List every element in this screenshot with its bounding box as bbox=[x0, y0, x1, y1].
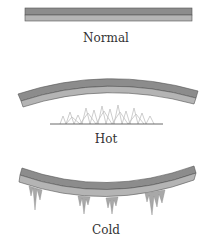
normal-strip bbox=[25, 8, 192, 21]
flames-icon bbox=[60, 105, 154, 124]
label-cold: Cold bbox=[0, 223, 212, 237]
cold-strip bbox=[19, 166, 196, 197]
label-hot: Hot bbox=[0, 132, 212, 146]
hot-strip bbox=[18, 79, 198, 107]
label-normal: Normal bbox=[0, 31, 212, 45]
